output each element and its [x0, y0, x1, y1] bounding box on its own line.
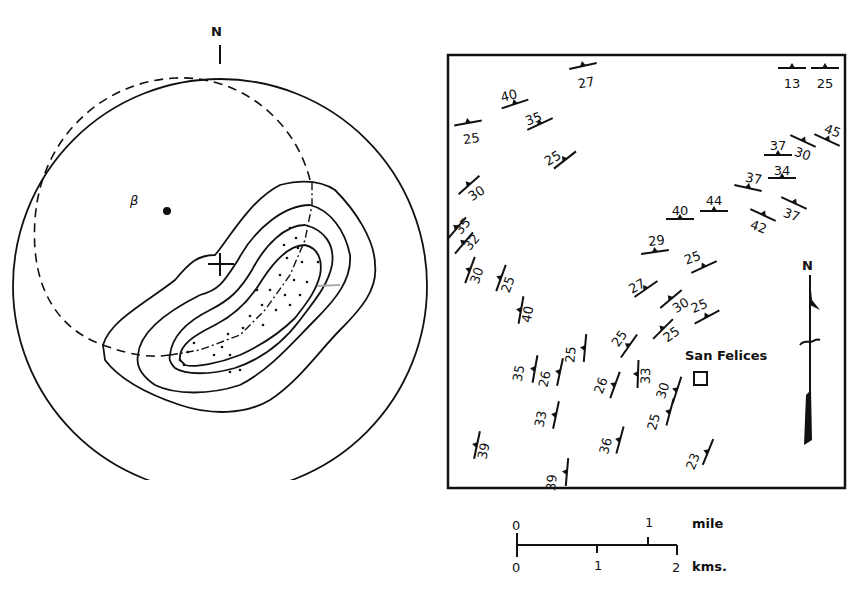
dip-symbol: 25: [644, 397, 673, 432]
dip-value: 25: [562, 346, 578, 364]
dip-value: 33: [532, 409, 550, 428]
dip-symbol: 30: [657, 286, 692, 316]
dip-symbol: 26: [591, 370, 620, 398]
dip-symbol: 40: [666, 203, 694, 219]
dip-symbol: 25: [492, 263, 518, 295]
scale-km-1: 1: [594, 558, 602, 573]
scale-km-0: 0: [512, 560, 520, 575]
dip-symbol: 26: [536, 357, 563, 388]
dip-symbols: 2740253525301325453037343737424440292535…: [444, 58, 843, 491]
dip-symbol: 40: [499, 86, 528, 108]
dip-value: 25: [542, 147, 564, 168]
dip-value: 39: [475, 441, 493, 460]
scale-mile-unit: mile: [692, 516, 723, 531]
dip-value: 35: [523, 109, 544, 129]
dip-value: 37: [781, 205, 802, 225]
town-marker[interactable]: [694, 372, 707, 385]
dip-value: 34: [774, 163, 791, 178]
dip-value: 44: [706, 193, 723, 208]
scale-bar: 0 1 mile 0 1 2 kms.: [512, 515, 727, 575]
beta-label: β: [129, 193, 138, 208]
dip-symbol: 30: [653, 375, 681, 403]
dip-value: 25: [682, 248, 703, 268]
dip-value: 27: [577, 74, 596, 92]
faint-mark: [317, 285, 340, 286]
dip-symbol: 25: [542, 147, 576, 168]
dip-symbol: 23: [683, 437, 713, 472]
dip-symbol: 25: [608, 327, 637, 357]
great-circle-dashed: [34, 78, 310, 356]
dip-symbol: 40: [514, 295, 537, 323]
dip-symbol: 37: [781, 193, 809, 225]
dip-symbol: 45: [814, 121, 843, 146]
north-arrow: N: [800, 258, 820, 445]
town-label: San Felices: [685, 348, 768, 363]
dip-value: 25: [644, 412, 663, 432]
dip-symbol: 27: [626, 276, 657, 298]
dip-symbol: 33: [532, 400, 559, 428]
primitive-circle: [13, 79, 427, 480]
dip-symbol: 35: [510, 354, 538, 382]
contour-outer: [103, 182, 375, 412]
stereonet-diagram: N β: [0, 0, 440, 480]
dip-value: 13: [784, 76, 801, 91]
dip-symbol: 27: [568, 58, 596, 91]
dip-value: 26: [591, 375, 611, 396]
axis-trace: [170, 180, 312, 355]
contour-inner: [180, 245, 321, 366]
dip-symbol: 25: [811, 63, 839, 91]
dip-value: 25: [462, 130, 480, 147]
dip-symbol: 30: [461, 255, 487, 286]
dip-symbol: 30: [455, 172, 487, 204]
dip-symbol: 35: [523, 109, 553, 130]
dip-value: 37: [770, 138, 787, 153]
dip-symbol: 25: [689, 296, 720, 324]
dip-value: 40: [672, 203, 689, 218]
scale-km-unit: kms.: [692, 559, 727, 574]
dip-symbol: 25: [682, 248, 717, 273]
dip-value: 45: [822, 121, 843, 141]
dip-value: 23: [683, 451, 703, 472]
dip-symbol: 39: [543, 458, 568, 492]
map-north-label: N: [802, 258, 813, 273]
dip-value: 30: [792, 144, 813, 164]
dip-value: 26: [536, 369, 554, 388]
dip-value: 37: [744, 170, 763, 188]
dip-value: 35: [510, 364, 528, 383]
dip-symbol: 13: [778, 63, 806, 91]
dip-symbol: 30: [790, 131, 817, 164]
dip-value: 40: [519, 305, 537, 324]
dip-symbol: 25: [562, 334, 586, 364]
dip-value: 33: [638, 367, 654, 384]
beta-point: [163, 207, 171, 215]
dip-symbol: 37: [734, 170, 763, 191]
dip-symbol: 37: [764, 138, 792, 155]
dip-symbol: 34: [768, 163, 796, 178]
dip-symbol: 32: [451, 229, 482, 254]
dip-value: 30: [653, 380, 672, 400]
dip-value: 29: [647, 232, 665, 249]
dip-value: 25: [817, 76, 834, 91]
scale-mile-1: 1: [645, 515, 653, 530]
dip-symbol: 44: [700, 193, 728, 211]
dip-symbol: 25: [453, 116, 481, 147]
dip-value: 36: [596, 436, 615, 456]
dip-value: 39: [543, 474, 559, 492]
dip-symbol: 42: [748, 205, 778, 237]
dip-value: 42: [748, 217, 769, 237]
dip-symbol: 36: [596, 425, 623, 456]
dip-symbol: 39: [469, 430, 492, 460]
dip-value: 25: [689, 296, 710, 316]
scale-km-2: 2: [672, 560, 680, 575]
scale-mile-0: 0: [512, 518, 520, 533]
dip-symbol: 25: [650, 316, 683, 346]
stereonet-north-label: N: [211, 24, 222, 39]
dip-symbol: 29: [640, 232, 668, 254]
dip-value: 27: [626, 276, 648, 297]
dip-symbol: 33: [633, 360, 654, 388]
